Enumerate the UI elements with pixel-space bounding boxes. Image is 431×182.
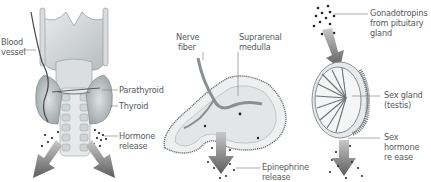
thyroid-left-arrow [33, 140, 62, 178]
label-parathyroid: Parathyroid [119, 85, 164, 95]
adrenal-panel [164, 52, 286, 179]
thyroid-panel [22, 8, 118, 178]
label-hormone-release: Hormone release [119, 131, 155, 151]
endocrine-illustration [0, 0, 431, 182]
sex-hormone-arrow [332, 140, 356, 176]
label-gonadotropins: Gonadotropins from pituitary gland [370, 8, 428, 38]
label-nerve-fiber: Nerve fiber [176, 32, 199, 52]
label-sex-hormone-release: Sex hormone re ease [384, 132, 419, 162]
label-epinephrine-release: Epinephrine release [262, 162, 309, 182]
label-suprarenal-medulla: Suprarenal medulla [239, 32, 282, 52]
label-thyroid: Thyroid [119, 101, 148, 111]
label-blood-vessel: Blood vessel [1, 37, 26, 57]
label-sex-gland: Sex gland (testis) [384, 90, 423, 110]
